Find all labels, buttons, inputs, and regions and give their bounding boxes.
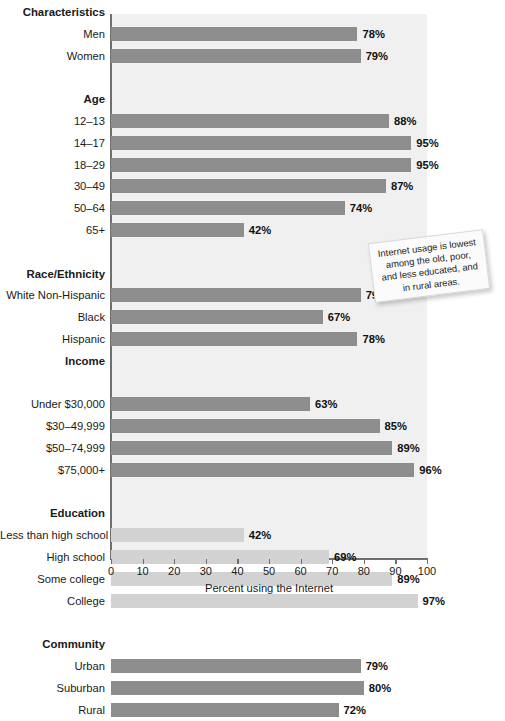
bar-row: Rural72% xyxy=(0,699,505,721)
category-label: Under $30,000 xyxy=(0,393,105,415)
bar-row: Black67% xyxy=(0,306,505,328)
bar-value-label: 78% xyxy=(362,328,384,350)
bar-value-label: 95% xyxy=(416,132,438,154)
category-label: 50–64 xyxy=(0,197,105,219)
bar xyxy=(111,594,418,608)
category-label: Urban xyxy=(0,655,105,677)
bar-value-label: 79% xyxy=(366,45,388,67)
spacer-row xyxy=(0,372,505,394)
group-header-row: Characteristics xyxy=(0,1,505,23)
bar-row: 14–1795% xyxy=(0,132,505,154)
bar xyxy=(111,114,389,128)
bar-value-label: 42% xyxy=(249,219,271,241)
bar-value-label: 80% xyxy=(369,677,391,699)
category-label: 14–17 xyxy=(0,132,105,154)
bar xyxy=(111,49,361,63)
group-header-label: Income xyxy=(0,350,105,372)
group-header-label: Education xyxy=(0,502,105,524)
bar-value-label: 96% xyxy=(419,459,441,481)
group-header-row: Age xyxy=(0,88,505,110)
group-header-label: Community xyxy=(0,633,105,655)
bar-row: 30–4987% xyxy=(0,175,505,197)
bar-value-label: 95% xyxy=(416,154,438,176)
spacer-row xyxy=(0,66,505,88)
group-header-label: Characteristics xyxy=(0,1,105,23)
bar-row: 12–1388% xyxy=(0,110,505,132)
bar-value-label: 78% xyxy=(362,23,384,45)
bar xyxy=(111,419,380,433)
bar-value-label: 85% xyxy=(385,415,407,437)
bar-row: 18–2995% xyxy=(0,154,505,176)
bar xyxy=(111,201,345,215)
bar xyxy=(111,463,414,477)
x-axis-tick xyxy=(143,559,144,564)
x-axis-tick xyxy=(364,559,365,564)
bar-row: Under $30,00063% xyxy=(0,393,505,415)
category-label: $75,000+ xyxy=(0,459,105,481)
bar-value-label: 79% xyxy=(366,655,388,677)
x-axis-tick xyxy=(301,559,302,564)
category-label: $30–49,999 xyxy=(0,415,105,437)
group-header-row: Income xyxy=(0,350,505,372)
bar-value-label: 89% xyxy=(397,437,419,459)
x-axis-title: Percent using the Internet xyxy=(111,582,427,594)
category-label: $50–74,999 xyxy=(0,437,105,459)
bar xyxy=(111,397,310,411)
category-label: 30–49 xyxy=(0,175,105,197)
category-label: Black xyxy=(0,306,105,328)
x-axis-tick xyxy=(395,559,396,564)
bar xyxy=(111,136,411,150)
category-label: 65+ xyxy=(0,219,105,241)
bar-value-label: 72% xyxy=(344,699,366,721)
category-label: White Non-Hispanic xyxy=(0,284,105,306)
bar-value-label: 74% xyxy=(350,197,372,219)
bar xyxy=(111,659,361,673)
x-axis-tick xyxy=(332,559,333,564)
bar xyxy=(111,158,411,172)
bar-value-label: 88% xyxy=(394,110,416,132)
bar-value-label: 87% xyxy=(391,175,413,197)
x-axis-tick xyxy=(237,559,238,564)
bar-value-label: 67% xyxy=(328,306,350,328)
bar-value-label: 42% xyxy=(249,524,271,546)
bar-row: Less than high school42% xyxy=(0,524,505,546)
bar-row: $50–74,99989% xyxy=(0,437,505,459)
spacer-row xyxy=(0,481,505,503)
bar-row: Men78% xyxy=(0,23,505,45)
bar xyxy=(111,179,386,193)
category-label: Women xyxy=(0,45,105,67)
spacer-row xyxy=(0,611,505,633)
bar-row: $30–49,99985% xyxy=(0,415,505,437)
bar xyxy=(111,288,361,302)
bar-value-label: 63% xyxy=(315,393,337,415)
group-header-row: Education xyxy=(0,502,505,524)
bar xyxy=(111,223,244,237)
category-label: College xyxy=(0,590,105,612)
bar xyxy=(111,681,364,695)
x-axis-tick xyxy=(269,559,270,564)
bar xyxy=(111,703,339,717)
bar-row: Suburban80% xyxy=(0,677,505,699)
group-header-label: Age xyxy=(0,88,105,110)
x-axis-tick xyxy=(174,559,175,564)
category-label: High school xyxy=(0,546,105,568)
bar xyxy=(111,27,357,41)
bar-row: Hispanic78% xyxy=(0,328,505,350)
category-label: Men xyxy=(0,23,105,45)
x-axis-tick xyxy=(111,559,112,564)
bar-row: $75,000+96% xyxy=(0,459,505,481)
category-label: Some college xyxy=(0,568,105,590)
category-label: Rural xyxy=(0,699,105,721)
category-label: Hispanic xyxy=(0,328,105,350)
bar-row: Women79% xyxy=(0,45,505,67)
bar xyxy=(111,528,244,542)
group-header-row: Community xyxy=(0,633,505,655)
bar-row: 50–6474% xyxy=(0,197,505,219)
bar-row: Urban79% xyxy=(0,655,505,677)
category-label: Suburban xyxy=(0,677,105,699)
category-label: 18–29 xyxy=(0,154,105,176)
bar xyxy=(111,441,392,455)
category-label: 12–13 xyxy=(0,110,105,132)
x-axis-tick xyxy=(427,559,428,564)
